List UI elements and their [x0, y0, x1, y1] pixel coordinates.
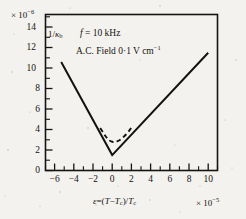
y-axis-title: 1/κb [48, 29, 63, 39]
y-tick-label-6: 6 [22, 104, 40, 114]
data-curve-solid [61, 53, 208, 155]
axes-frame [46, 15, 218, 171]
x-tick-label-4: 4 [143, 174, 159, 184]
x-axis-title: ε=(T−Tc)/Tc [93, 196, 136, 206]
x-tick-label-neg2: −2 [85, 174, 101, 184]
figure-container: × 10−6 × 10−5 0 2 4 6 8 10 12 14 −6 −4 −… [0, 0, 246, 219]
x-tick-label-10: 10 [200, 174, 216, 184]
y-tick-label-14: 14 [18, 22, 36, 32]
y-tick-label-2: 2 [22, 145, 40, 155]
x-tick-label-0: 0 [104, 174, 120, 184]
annotation-frequency: f = 10 kHz [80, 28, 120, 38]
x-major-ticks [55, 164, 209, 171]
x-tick-label-6: 6 [162, 174, 178, 184]
x-tick-label-neg4: −4 [66, 174, 82, 184]
x-tick-label-neg6: −6 [47, 174, 63, 184]
x-tick-label-8: 8 [181, 174, 197, 184]
y-tick-label-10: 10 [18, 63, 36, 73]
x-tick-label-2: 2 [123, 174, 139, 184]
annotation-ac-field: A.C. Field 0·1 V cm−1 [76, 44, 161, 56]
y-tick-label-4: 4 [22, 124, 40, 134]
x-axis-exponent: × 10−5 [196, 196, 219, 208]
y-tick-label-0: 0 [22, 165, 40, 175]
y-axis-exponent: × 10−6 [11, 8, 34, 20]
y-tick-label-8: 8 [22, 83, 40, 93]
y-tick-label-12: 12 [18, 42, 36, 52]
